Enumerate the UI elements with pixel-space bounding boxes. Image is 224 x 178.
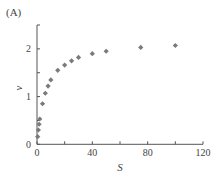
x-tick-label: 0 — [35, 147, 40, 158]
data-point-marker — [55, 68, 60, 73]
data-point-marker — [40, 101, 45, 106]
x-tick-label: 120 — [196, 147, 211, 158]
y-tick-label: 2 — [26, 43, 31, 54]
data-point-marker — [35, 134, 40, 139]
x-axis-title: S — [117, 161, 123, 173]
scatter-chart: 04080120012 S v — [0, 0, 224, 178]
y-tick-label: 0 — [26, 139, 31, 150]
data-point-marker — [76, 55, 81, 60]
data-point-marker — [138, 45, 143, 50]
data-point-marker — [90, 51, 95, 56]
data-point-marker — [62, 62, 67, 67]
y-tick-label: 1 — [26, 91, 31, 102]
data-point-marker — [43, 91, 48, 96]
data-point-marker — [173, 43, 178, 48]
data-point-marker — [45, 83, 50, 88]
data-points — [35, 43, 178, 139]
y-axis-title: v — [12, 85, 24, 90]
data-point-marker — [69, 58, 74, 63]
x-tick-label: 40 — [87, 147, 97, 158]
data-point-marker — [104, 49, 109, 54]
x-tick-label: 80 — [143, 147, 153, 158]
axes: 04080120012 — [26, 25, 211, 158]
data-point-marker — [48, 77, 53, 82]
